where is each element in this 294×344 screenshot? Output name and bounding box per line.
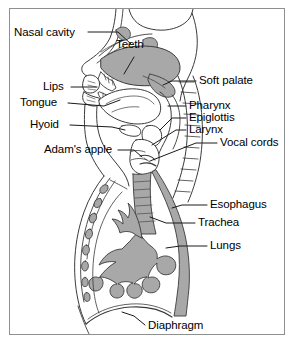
label-pharynx: Pharynx: [189, 100, 231, 112]
hard-palate: [101, 46, 180, 86]
label-teeth: Teeth: [116, 39, 144, 51]
label-lips: Lips: [43, 81, 64, 93]
pharynx: [158, 92, 180, 156]
label-vocal-cords: Vocal cords: [220, 137, 278, 149]
label-diaphragm: Diaphragm: [148, 320, 203, 332]
lips: [83, 75, 101, 106]
label-esophagus: Esophagus: [210, 199, 267, 211]
label-trachea: Trachea: [198, 217, 239, 229]
label-adams-apple: Adam's apple: [44, 144, 112, 156]
leader-esophagus: [172, 205, 207, 208]
label-epiglottis: Epiglottis: [189, 112, 235, 124]
leader-diaphragm: [122, 312, 145, 325]
label-soft-palate: Soft palate: [199, 75, 253, 87]
label-larynx: Larynx: [189, 124, 223, 136]
label-lungs: Lungs: [210, 240, 241, 252]
label-tongue: Tongue: [20, 97, 57, 109]
leader-epiglottis: [160, 118, 186, 130]
larynx: [130, 139, 159, 174]
label-hyoid: Hyoid: [30, 119, 59, 131]
anatomy-figure: Nasal cavity Teeth Lips Tongue Hyoid Ada…: [0, 0, 294, 344]
tongue: [99, 89, 161, 124]
torso-bottom: [78, 306, 90, 336]
bronchial-tree: [89, 203, 176, 298]
label-nasal-cavity: Nasal cavity: [14, 27, 75, 39]
hyoid-bone: [120, 125, 141, 136]
anatomy-illustration: [0, 0, 294, 344]
